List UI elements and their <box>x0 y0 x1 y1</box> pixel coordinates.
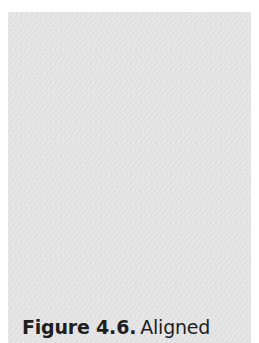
figure-caption: Figure 4.6.Aligned <box>22 314 210 340</box>
figure-image-panel <box>8 12 251 343</box>
page: Figure 4.6.Aligned <box>0 0 259 343</box>
figure-caption-text: Aligned <box>140 316 210 338</box>
figure-caption-label: Figure 4.6. <box>22 316 136 338</box>
